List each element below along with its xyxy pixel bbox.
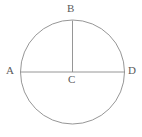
vertex-label-a: A [6,65,14,76]
geometry-canvas [0,0,142,137]
center-label-c: C [68,74,75,85]
vertex-label-d: D [128,65,136,76]
circle-diagram: A B C D [0,0,142,137]
vertex-label-b: B [67,3,74,14]
